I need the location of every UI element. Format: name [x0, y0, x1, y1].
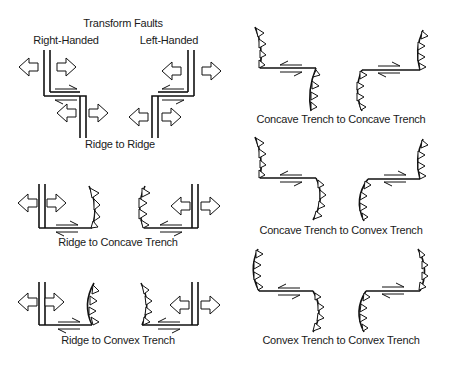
fault-convex-convex-right — [359, 249, 428, 332]
fault-ridge-convex-right — [141, 282, 220, 333]
slip-arrow-icon — [55, 100, 77, 104]
slip-arrow-icon — [378, 73, 400, 77]
spreading-arrow-icon — [170, 296, 189, 314]
slip-arrow-icon — [278, 295, 300, 299]
slip-arrow-icon — [162, 100, 184, 104]
slip-arrow-icon — [160, 232, 182, 236]
slip-arrow-icon — [280, 72, 302, 76]
slip-arrow-icon — [58, 329, 80, 333]
spreading-arrow-icon — [202, 62, 221, 80]
spreading-arrow-icon — [18, 293, 37, 311]
slip-arrow-icon — [158, 318, 180, 322]
spreading-arrow-icon — [47, 194, 66, 212]
spreading-arrow-icon — [201, 296, 220, 314]
fault-ridge-concave-right — [139, 184, 220, 236]
slip-arrow-icon — [158, 329, 180, 333]
spreading-arrow-icon — [162, 62, 181, 80]
slip-arrow-icon — [378, 62, 400, 66]
spreading-arrow-icon — [18, 194, 37, 212]
slip-arrow-icon — [55, 85, 77, 89]
spreading-arrow-icon — [45, 293, 64, 311]
diagram-canvas — [0, 0, 453, 369]
slip-arrow-icon — [280, 171, 302, 175]
slip-arrow-icon — [384, 182, 406, 186]
slip-arrow-icon — [56, 232, 78, 236]
slip-arrow-icon — [280, 182, 302, 186]
fault-ridge-ridge-left-handed — [129, 50, 221, 138]
slip-arrow-icon — [278, 284, 300, 288]
spreading-arrow-icon — [201, 197, 220, 215]
slip-arrow-icon — [280, 61, 302, 65]
spreading-arrow-icon — [57, 104, 76, 122]
slip-arrow-icon — [384, 171, 406, 175]
spreading-arrow-icon — [89, 104, 108, 122]
slip-arrow-icon — [382, 283, 404, 287]
spreading-arrow-icon — [19, 58, 38, 76]
slip-arrow-icon — [56, 221, 78, 225]
slip-arrow-icon — [162, 85, 184, 89]
slip-arrow-icon — [160, 221, 182, 225]
fault-ridge-convex-left — [18, 282, 99, 333]
fault-ridge-ridge-right-handed — [19, 50, 108, 138]
fault-concave-convex-right — [359, 139, 428, 221]
spreading-arrow-icon — [162, 108, 181, 126]
fault-concave-convex-left — [255, 137, 326, 220]
spreading-arrow-icon — [57, 58, 76, 76]
spreading-arrow-icon — [171, 197, 190, 215]
fault-convex-convex-left — [253, 249, 324, 332]
slip-arrow-icon — [382, 294, 404, 298]
spreading-arrow-icon — [129, 108, 148, 126]
fault-ridge-concave-left — [18, 184, 100, 236]
fault-concave-concave-right — [357, 30, 428, 111]
slip-arrow-icon — [58, 318, 80, 322]
fault-concave-concave-left — [255, 27, 320, 111]
